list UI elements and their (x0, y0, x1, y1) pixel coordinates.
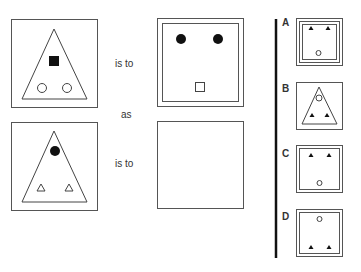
figure-bottom-left (12, 123, 98, 211)
open-circle-icon (63, 84, 72, 93)
open-circle-icon (38, 84, 47, 93)
figure-top-left (12, 20, 98, 108)
open-circle-icon (316, 95, 322, 101)
filled-circle-icon (50, 146, 60, 156)
open-square-icon (196, 83, 205, 92)
open-triangle-icon (65, 184, 73, 191)
open-circle-icon (317, 217, 322, 222)
filled-triangle-icon (326, 26, 331, 30)
puzzle-canvas (0, 0, 361, 272)
filled-triangle-icon (310, 113, 315, 117)
filled-triangle-icon (309, 153, 314, 157)
option-a-figure[interactable] (297, 19, 343, 66)
connector-middle: as (121, 109, 132, 120)
filled-square-icon (49, 56, 59, 66)
open-circle-icon (317, 181, 322, 186)
filled-triangle-icon (325, 113, 330, 117)
figure-top-right (158, 19, 244, 107)
filled-triangle-icon (309, 245, 314, 249)
connector-top: is to (115, 58, 133, 69)
filled-triangle-icon (309, 26, 314, 30)
open-triangle-icon (37, 184, 45, 191)
triangle-shape (22, 131, 87, 202)
option-d-figure[interactable] (297, 210, 343, 257)
connector-bottom: is to (115, 158, 133, 169)
filled-triangle-icon (327, 245, 332, 249)
option-c-label: C (282, 148, 289, 159)
filled-triangle-icon (327, 153, 332, 157)
option-a-label: A (282, 17, 289, 28)
open-circle-icon (316, 51, 321, 56)
figure-bottom-right (158, 122, 244, 209)
option-d-label: D (282, 211, 289, 222)
option-b-figure[interactable] (297, 83, 343, 130)
filled-circle-icon (176, 34, 186, 44)
option-b-label: B (282, 83, 289, 94)
filled-circle-icon (213, 34, 223, 44)
option-c-figure[interactable] (297, 146, 343, 193)
